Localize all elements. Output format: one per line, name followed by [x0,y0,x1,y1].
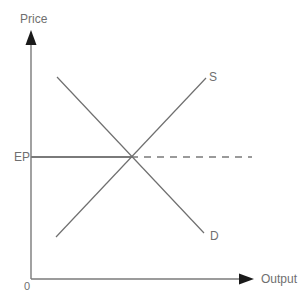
demand-curve [57,77,204,233]
x-axis-label: Output [261,272,298,286]
supply-curve-label: S [209,70,217,84]
y-axis-arrow-icon [26,30,37,45]
y-axis-label: Price [20,12,48,26]
supply-demand-diagram: Price Output 0 EP S D [0,0,304,303]
equilibrium-price-label: EP [14,150,30,164]
x-axis-arrow-icon [239,274,254,285]
origin-label: 0 [24,280,30,292]
demand-curve-label: D [210,229,219,243]
chart-canvas: Price Output 0 EP S D [0,0,304,303]
